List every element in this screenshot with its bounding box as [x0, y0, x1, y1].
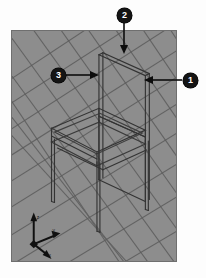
figure-root: z y x 1 2: [0, 0, 206, 278]
callout-badge-2[interactable]: 2: [117, 8, 132, 23]
3d-viewport[interactable]: z y x: [11, 30, 177, 262]
viewport-canvas[interactable]: z y x: [12, 31, 176, 261]
callout-badge-1[interactable]: 1: [183, 73, 198, 88]
